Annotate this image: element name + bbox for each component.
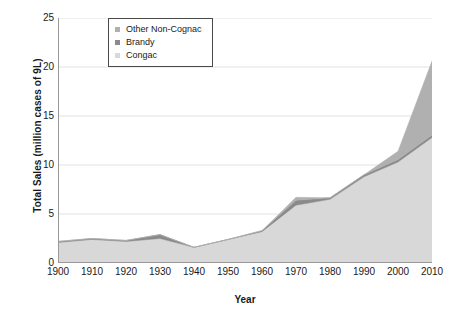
legend-swatch-icon: [115, 40, 120, 45]
x-axis-title: Year: [58, 294, 432, 305]
legend-item-label: Brandy: [126, 38, 155, 47]
legend-item-brandy[interactable]: Brandy: [115, 36, 202, 49]
y-tick-label: 10: [2, 160, 54, 170]
x-axis-tick-labels: 1900191019201930194019501960197019801990…: [58, 267, 432, 283]
legend-item-label: Other Non-Cognac: [126, 25, 202, 34]
legend-item-congac[interactable]: Congac: [115, 49, 202, 62]
chart-figure: Total Sales (million cases of 9L) 051015…: [0, 0, 456, 316]
x-tick-label: 2010: [412, 267, 452, 277]
y-axis-tick-labels: 0510152025: [0, 18, 54, 263]
legend-swatch-icon: [115, 27, 120, 32]
legend-item-label: Congac: [126, 51, 157, 60]
y-tick-label: 5: [2, 209, 54, 219]
y-tick-label: 15: [2, 111, 54, 121]
chart-legend: Other Non-CognacBrandyCongac: [108, 18, 213, 67]
legend-item-other-non-cognac[interactable]: Other Non-Cognac: [115, 23, 202, 36]
y-tick-label: 25: [2, 13, 54, 23]
legend-swatch-icon: [115, 53, 120, 58]
area-series-group: [58, 61, 432, 263]
y-tick-label: 20: [2, 62, 54, 72]
area-series-congac: [58, 138, 432, 263]
